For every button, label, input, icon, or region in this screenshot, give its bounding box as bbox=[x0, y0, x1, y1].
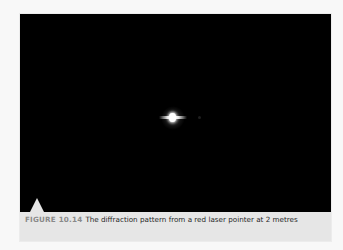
figure-label: FIGURE 10.14 bbox=[25, 215, 82, 224]
laser-spot bbox=[169, 113, 176, 122]
diffraction-photo bbox=[20, 14, 331, 212]
caption-text: The diffraction pattern from a red laser… bbox=[85, 215, 297, 224]
figure-caption: FIGURE 10.14The diffraction pattern from… bbox=[20, 212, 331, 241]
page: FIGURE 10.14The diffraction pattern from… bbox=[0, 0, 343, 250]
caption-pointer-icon bbox=[30, 198, 44, 212]
figure: FIGURE 10.14The diffraction pattern from… bbox=[20, 14, 331, 241]
faint-fringe bbox=[198, 116, 201, 119]
